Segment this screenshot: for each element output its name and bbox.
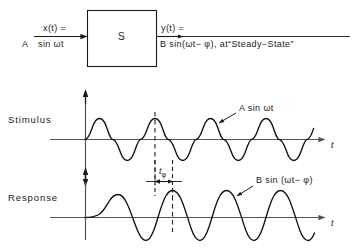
- system-block-label: S: [118, 31, 125, 42]
- input-amplitude-label: A: [22, 39, 28, 49]
- input-expression-line1: x(t) =: [43, 23, 66, 33]
- stimulus-curve-annotation: A sin ωt: [239, 103, 274, 113]
- figure-vector-layer: [0, 0, 356, 251]
- input-expression-line2: sin ωt: [38, 39, 64, 49]
- phase-delay-subscript: φ: [162, 171, 167, 178]
- response-annotation-leader: [237, 186, 253, 196]
- stimulus-time-axis-label: t: [331, 140, 334, 150]
- output-expression-line2: B sin(ωt− φ), at“Steady−State”: [160, 39, 294, 49]
- system-frequency-response-figure: S A x(t) = sin ωt y(t) = B sin(ωt− φ), a…: [0, 0, 356, 251]
- response-time-axis-label: t: [331, 218, 334, 228]
- output-expression-line1: y(t) =: [161, 23, 184, 33]
- stimulus-plot-label: Stimulus: [8, 114, 52, 125]
- response-curve-annotation: B sin (ωt− φ): [256, 175, 313, 185]
- response-plot-label: Response: [8, 192, 58, 203]
- stimulus-annotation-leader: [219, 113, 236, 123]
- phase-delay-label: t φ: [159, 166, 166, 176]
- response-sine-curve: [85, 191, 315, 241]
